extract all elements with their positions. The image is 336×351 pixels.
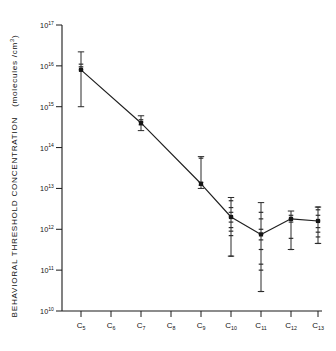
- y-axis-title-units: (molecules /cm: [10, 42, 19, 107]
- x-axis-ticks: [81, 311, 318, 317]
- y-tick-label: 1011: [40, 265, 54, 275]
- plot-layer: [78, 52, 321, 292]
- data-point-marker: [229, 215, 233, 219]
- y-tick-label: 1017: [40, 20, 54, 30]
- y-tick-label: 1012: [40, 224, 54, 234]
- data-point-marker: [79, 68, 83, 72]
- x-tick-label: C13: [312, 321, 324, 331]
- y-axis-title-main: BEHAVIORAL THRESHOLD CONCENTRATION: [10, 117, 19, 318]
- svg-text:BEHAVIORAL THRESHOLD CONCENT: BEHAVIORAL THRESHOLD CONCENTRATION (mole…: [9, 35, 19, 318]
- x-tick-label: C9: [197, 321, 206, 331]
- x-axis-tick-labels: C5 C6 C7 C8 C9 C10 C11 C12 C13: [77, 321, 324, 331]
- y-tick-label: 1013: [40, 183, 54, 193]
- data-point-marker: [316, 219, 320, 223]
- y-tick-label: 1014: [40, 142, 54, 152]
- data-point-marker: [289, 217, 293, 221]
- data-point-marker: [199, 182, 203, 186]
- x-tick-label: C8: [167, 321, 176, 331]
- y-tick-label: 1015: [40, 101, 54, 111]
- chart-figure: BEHAVIORAL THRESHOLD CONCENTRATION (mole…: [0, 0, 336, 351]
- x-tick-label: C12: [285, 321, 297, 331]
- data-point-marker: [139, 121, 143, 125]
- series-line: [81, 70, 318, 235]
- chart-svg: BEHAVIORAL THRESHOLD CONCENTRATION (mole…: [0, 0, 336, 351]
- y-axis-ticks: [56, 25, 62, 311]
- y-axis-tick-labels: 1017 1016 1015 1014 1013 1012 1011 1010: [40, 20, 54, 316]
- x-tick-label: C10: [225, 321, 237, 331]
- y-tick-label: 1010: [40, 306, 54, 316]
- data-point-marker: [259, 232, 263, 236]
- y-axis-title-units-close: ): [10, 35, 19, 38]
- y-tick-label: 1016: [40, 61, 54, 71]
- y-axis-title: BEHAVIORAL THRESHOLD CONCENTRATION (mole…: [9, 35, 19, 318]
- x-tick-label: C11: [255, 321, 266, 331]
- x-tick-label: C7: [137, 321, 146, 331]
- x-tick-label: C6: [107, 321, 116, 331]
- x-tick-label: C5: [77, 321, 86, 331]
